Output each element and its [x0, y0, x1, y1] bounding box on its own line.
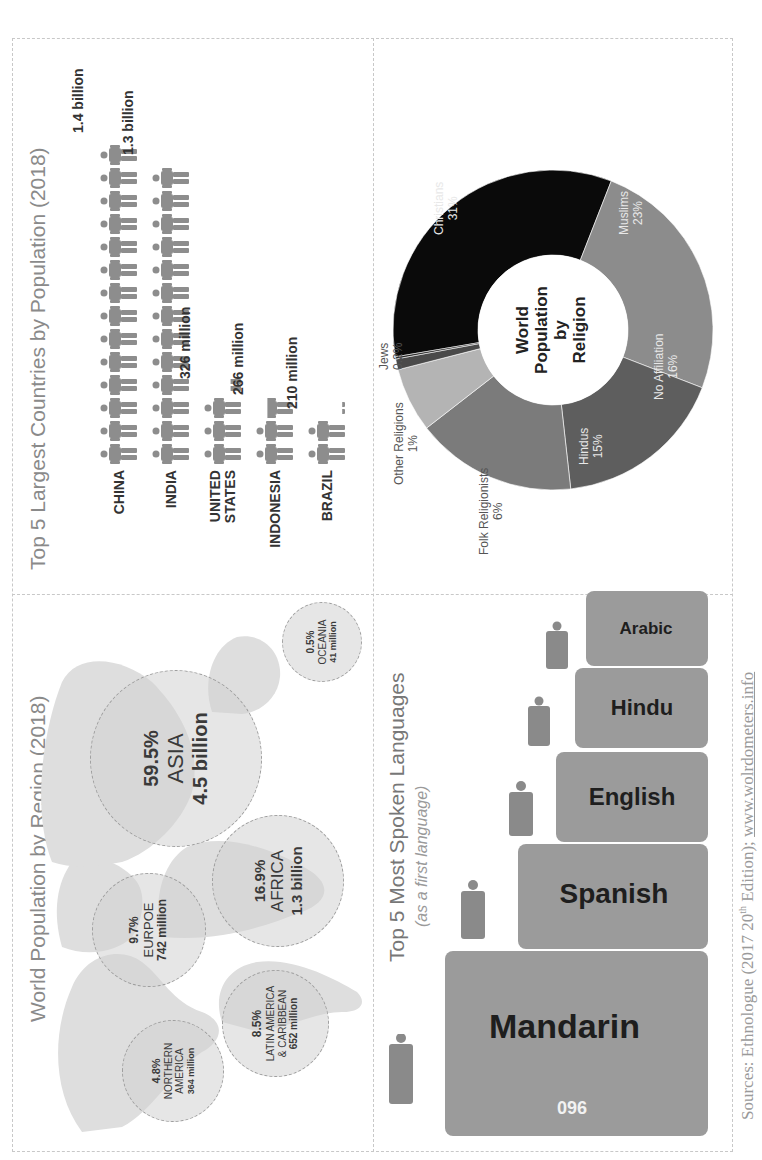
language-name-english: English [557, 783, 707, 811]
region-bubble-oceania: 0.5% OCEANIA 41 million [282, 602, 362, 682]
person-icon [100, 213, 138, 235]
person-icon [204, 443, 242, 465]
person-icon [100, 236, 138, 258]
countries-title: Top 5 Largest Countries by Population (2… [26, 147, 50, 570]
label-jews: Jews 0.2% [378, 343, 406, 370]
person-icon [100, 282, 138, 304]
language-name-hindu: Hindu [577, 695, 707, 721]
person-icon-english [503, 781, 539, 836]
person-icon [100, 420, 138, 442]
person-icon [100, 397, 138, 419]
person-icon [100, 167, 138, 189]
language-bar-arabic: Arabic [586, 591, 708, 666]
region-bubble-asia: 59.5% ASIA 4.5 billion [90, 670, 262, 847]
country-name-china: CHINA [112, 470, 127, 580]
person-icon-arabic [541, 621, 573, 669]
person-icon [100, 259, 138, 281]
label-folk-religionists: Folk Religionists 6% [478, 468, 506, 555]
person-icon [256, 443, 294, 465]
language-bar-english: English [556, 752, 708, 842]
person-icon [152, 236, 190, 258]
region-panel: World Population by Region (2018) 4.8% N… [12, 595, 373, 1152]
language-bar-spanish: Spanish [518, 844, 708, 949]
country-name-brazil: BRAZIL [320, 470, 335, 580]
person-icon [100, 443, 138, 465]
person-icon [204, 397, 242, 419]
person-icon [152, 259, 190, 281]
person-icon [152, 420, 190, 442]
label-no-affiliation: No Affiliation 16% [653, 334, 681, 401]
label-hindus: Hindus 15% [578, 428, 606, 465]
languages-panel: Top 5 Most Spoken Languages (as a first … [373, 595, 733, 1152]
label-other-religions: Other Religions 1% [393, 402, 421, 485]
person-icon [152, 190, 190, 212]
language-name-mandarin: Mandarin [435, 1007, 695, 1046]
person-icon [308, 443, 346, 465]
region-bubble-europe: 9.7% EURPOE 742 million [92, 873, 206, 987]
people-row-china [100, 144, 138, 465]
person-icon [152, 443, 190, 465]
religion-center-label: World Population by Religion [513, 270, 589, 390]
language-bar-mandarin: 960 Mandarin [445, 951, 708, 1136]
country-value-brazil: 210 million [284, 337, 300, 409]
country-value-india: 1.3 billion [120, 90, 136, 155]
person-icon [256, 420, 294, 442]
person-icon [308, 397, 346, 419]
language-name-spanish: Spanish [524, 878, 704, 910]
country-value-indonesia: 266 million [230, 323, 246, 395]
country-name-united-states: UNITED STATES [208, 470, 239, 540]
person-icon-spanish [453, 879, 493, 939]
region-bubble-latin-america: 8.5% LATIN AMERICA & CARIBBEAN 652 milli… [222, 970, 329, 1077]
country-name-indonesia: INDONESIA [268, 470, 283, 580]
person-icon [100, 305, 138, 327]
person-icon [100, 374, 138, 396]
infographic-page: World Population by Region (2018) 4.8% N… [0, 0, 762, 1160]
person-icon [100, 190, 138, 212]
source-link[interactable]: www.wolrdometers.info [738, 672, 757, 837]
person-icon [308, 420, 346, 442]
languages-title: Top 5 Most Spoken Languages [385, 672, 409, 962]
people-row-brazil [308, 397, 346, 465]
person-icon [152, 282, 190, 304]
label-christians: Christians 31% [433, 182, 461, 235]
person-icon [204, 420, 242, 442]
religion-panel: World Population by Religion Christians … [373, 38, 733, 595]
languages-subtitle: (as a first language) [413, 786, 431, 927]
region-bubble-northern-america: 4.8% NORTHERN AMERICA 364 million [122, 1020, 224, 1122]
language-bar-hindu: Hindu [575, 668, 708, 748]
country-name-india: INDIA [164, 470, 179, 580]
person-icon [152, 397, 190, 419]
person-icon-hindu [523, 696, 557, 746]
person-icon [100, 351, 138, 373]
person-icon-mandarin [381, 1034, 421, 1104]
label-muslims: Muslims 23% [618, 191, 646, 235]
country-value-united-states: 326 million [177, 307, 193, 379]
person-icon [152, 213, 190, 235]
person-icon [152, 167, 190, 189]
person-icon [100, 328, 138, 350]
country-value-china: 1.4 billion [70, 68, 86, 133]
source-citation: Sources: Ethnologue (2017 20th Edition);… [737, 672, 758, 1120]
language-name-arabic: Arabic [584, 619, 709, 639]
countries-panel: Top 5 Largest Countries by Population (2… [12, 38, 373, 595]
region-bubble-africa: 16.9% AFRICA 1.3 billion [212, 815, 344, 947]
